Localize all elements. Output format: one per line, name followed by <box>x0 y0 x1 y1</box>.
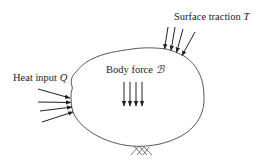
traction-arrow <box>171 27 175 51</box>
traction-symbol: T <box>243 11 249 22</box>
surface-traction-text: Surface traction <box>174 11 243 22</box>
traction-arrow <box>182 32 195 56</box>
heat-arrow <box>38 89 70 98</box>
heat-arrows <box>38 89 73 122</box>
fixed-support-hatch <box>131 146 152 155</box>
surface-traction-label: Surface traction T <box>174 12 249 23</box>
heat-symbol: Q <box>60 72 68 83</box>
heat-arrow <box>42 112 73 122</box>
body-force-label: Body force ℬ <box>106 65 164 76</box>
traction-arrow <box>165 27 169 49</box>
body-force-text: Body force <box>106 64 156 75</box>
body-force-symbol: ℬ <box>156 64 164 75</box>
traction-arrow <box>177 29 184 53</box>
heat-arrow <box>38 102 71 103</box>
heat-arrow <box>40 107 72 111</box>
heat-input-label: Heat input Q <box>13 73 67 84</box>
body-force-arrows <box>124 82 142 106</box>
body-outline <box>71 48 204 147</box>
traction-arrows <box>165 27 196 56</box>
heat-input-text: Heat input <box>13 72 60 83</box>
